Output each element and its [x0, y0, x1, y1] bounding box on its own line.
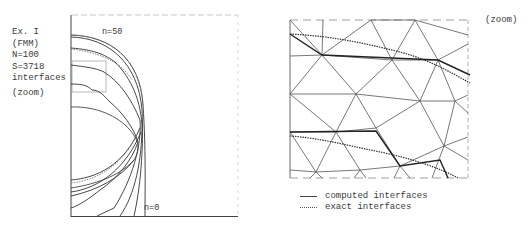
legend-exact: exact interfaces: [300, 202, 428, 213]
legend-computed: computed interfaces: [300, 191, 428, 202]
label-n50: n=50: [102, 27, 122, 37]
legend-exact-label: exact interfaces: [325, 202, 411, 213]
right-zoom-label: (zoom): [485, 15, 517, 26]
left-plot: [71, 15, 238, 217]
label-n0: n=0: [144, 203, 159, 213]
right-plot-interfaces: [290, 34, 470, 178]
legend: computed interfaces exact interfaces: [300, 191, 428, 213]
legend-computed-label: computed interfaces: [325, 191, 428, 202]
figure-canvas: n=50 n=0: [0, 0, 528, 227]
solid-line-swatch-icon: [300, 196, 317, 197]
dotted-line-swatch-icon: [300, 207, 317, 208]
right-plot-mesh: [290, 20, 468, 178]
